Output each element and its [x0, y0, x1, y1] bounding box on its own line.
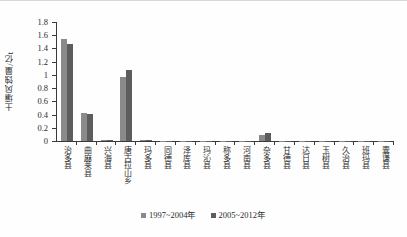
- y-axis-tick-label: 0.4: [18, 110, 48, 119]
- x-axis-label: 甘德县: [281, 146, 289, 169]
- x-axis-ticks: [57, 141, 394, 145]
- legend-item: 1997~2004年: [141, 211, 197, 220]
- bar-group: [374, 22, 394, 141]
- legend-label: 2005~2012年: [219, 211, 267, 220]
- x-axis-label: 称多县: [222, 146, 230, 169]
- x-axis-tick: [295, 141, 315, 145]
- x-axis-label-cell: 称多县: [216, 146, 236, 204]
- x-axis-tick: [275, 141, 295, 145]
- x-axis-label-cell: 河南县: [235, 146, 255, 204]
- x-axis-label: 玉树县: [321, 146, 329, 169]
- x-axis-label-cell: 玉树县: [315, 146, 335, 204]
- x-axis-tick: [176, 141, 196, 145]
- bar: [126, 70, 132, 141]
- y-axis-tick-label: 0.6: [18, 97, 48, 106]
- bar: [265, 133, 271, 141]
- x-axis-tick: [335, 141, 355, 145]
- x-axis-label-cell: 达日县: [295, 146, 315, 204]
- x-axis-label: 久治县: [341, 146, 349, 169]
- bar: [67, 44, 73, 141]
- x-axis-label-cell: 玛多县: [136, 146, 156, 204]
- legend-swatch: [211, 213, 216, 218]
- x-axis-tick: [156, 141, 176, 145]
- x-axis-label-cell: 兴海县: [97, 146, 117, 204]
- x-axis-tick: [136, 141, 156, 145]
- bar-group: [295, 22, 315, 141]
- x-axis-label-cell: 久治县: [335, 146, 355, 204]
- legend-item: 2005~2012年: [211, 211, 267, 220]
- x-axis-tick: [374, 141, 394, 145]
- y-axis-tick-label: 1: [18, 71, 48, 80]
- x-axis-label: 泽库县: [182, 146, 190, 169]
- x-axis-labels: 治多县曲麻莱县兴海县唐古拉山乡玛多县同德县泽库县玛沁县称多县河南县杂多县甘德县达…: [57, 146, 394, 204]
- x-axis-tick: [77, 141, 97, 145]
- x-axis-label-cell: 唐古拉山乡: [116, 146, 136, 204]
- x-axis-label-cell: 玛沁县: [196, 146, 216, 204]
- bar-group: [335, 22, 355, 141]
- bar-group: [116, 22, 136, 141]
- bar-group: [235, 22, 255, 141]
- bar-group: [136, 22, 156, 141]
- x-axis-label: 玛多县: [142, 146, 150, 169]
- y-axis-tick-label: 1.4: [18, 44, 48, 53]
- x-axis-tick: [196, 141, 216, 145]
- legend-swatch: [141, 213, 146, 218]
- x-axis-label-cell: 班玛县: [354, 146, 374, 204]
- bar-group: [275, 22, 295, 141]
- bar-group: [216, 22, 236, 141]
- y-axis-tick-label: 0.2: [18, 124, 48, 133]
- x-axis-tick: [57, 141, 77, 145]
- x-axis-label: 玛沁县: [202, 146, 210, 169]
- x-axis-label: 治多县: [63, 146, 71, 169]
- bar-group: [176, 22, 196, 141]
- bar-group: [196, 22, 216, 141]
- y-axis-title: 土壤风蚀量/亿t: [3, 22, 17, 141]
- bar: [87, 114, 93, 141]
- y-axis-tick-label: 1.6: [18, 31, 48, 40]
- x-axis-label: 兴海县: [103, 146, 111, 169]
- bar-group: [57, 22, 77, 141]
- bar-group: [97, 22, 117, 141]
- chart-figure: 土壤风蚀量/亿t 00.20.40.60.811.21.41.61.8 治多县曲…: [0, 0, 407, 237]
- y-axis-tick-label: 0.8: [18, 84, 48, 93]
- y-axis-tick-label: 0: [18, 137, 48, 146]
- y-axis-tick-label: 1.2: [18, 57, 48, 66]
- x-axis-tick: [235, 141, 255, 145]
- x-axis-label: 曲麻莱县: [83, 146, 91, 177]
- y-axis-title-text: 土壤风蚀量/亿t: [4, 52, 16, 111]
- x-axis-label: 班玛县: [360, 146, 368, 169]
- chart-legend: 1997~2004年2005~2012年: [0, 211, 407, 220]
- x-axis-label: 同德县: [162, 146, 170, 169]
- bar-group: [77, 22, 97, 141]
- x-axis-tick: [216, 141, 236, 145]
- x-axis-tick: [354, 141, 374, 145]
- figure-top-rule: [0, 0, 407, 1]
- x-axis-label-cell: 甘德县: [275, 146, 295, 204]
- x-axis-tick: [255, 141, 275, 145]
- x-axis-tick: [97, 141, 117, 145]
- bar-group: [315, 22, 335, 141]
- x-axis-label: 达日县: [301, 146, 309, 169]
- x-axis-tick: [116, 141, 136, 145]
- x-axis-label-cell: 囊谦县: [374, 146, 394, 204]
- x-axis-label: 杂多县: [261, 146, 269, 169]
- x-axis-label-cell: 杂多县: [255, 146, 275, 204]
- x-axis-label: 囊谦县: [380, 146, 388, 169]
- x-axis-label-cell: 治多县: [57, 146, 77, 204]
- x-axis-label-cell: 泽库县: [176, 146, 196, 204]
- bar-groups: [57, 22, 394, 141]
- x-axis-label-cell: 同德县: [156, 146, 176, 204]
- x-axis-label-cell: 曲麻莱县: [77, 146, 97, 204]
- legend-label: 1997~2004年: [149, 211, 197, 220]
- bar-group: [255, 22, 275, 141]
- bar-group: [156, 22, 176, 141]
- x-axis-tick: [315, 141, 335, 145]
- x-axis-label: 河南县: [241, 146, 249, 169]
- x-axis-label: 唐古拉山乡: [122, 146, 130, 185]
- bar-group: [354, 22, 374, 141]
- y-axis-tick-label: 1.8: [18, 18, 48, 27]
